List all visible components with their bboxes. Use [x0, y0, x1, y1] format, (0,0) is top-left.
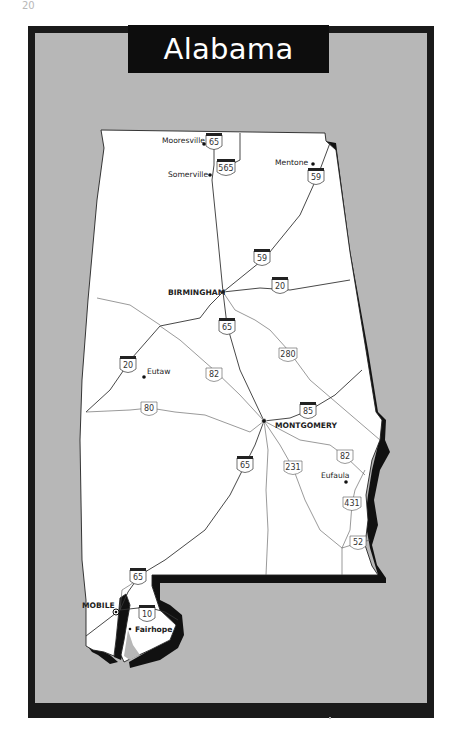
svg-text:82: 82: [209, 370, 219, 379]
svg-text:85: 85: [303, 407, 313, 416]
alabama-map: 65 565 59 59 20 65 2: [0, 0, 456, 739]
interstate-shield-59: 59: [254, 249, 270, 266]
svg-text:280: 280: [280, 350, 295, 359]
city-dot-montgomery: [262, 419, 267, 424]
scan-speck: [329, 717, 331, 719]
interstate-shield-10: 10: [139, 605, 155, 622]
svg-text:80: 80: [144, 404, 154, 413]
svg-text:10: 10: [142, 610, 152, 619]
city-label-mentone: Mentone: [275, 158, 308, 167]
us-shield-52: 52: [350, 536, 366, 550]
interstate-shield-59-north: 59: [308, 168, 324, 185]
svg-text:431: 431: [344, 499, 359, 508]
svg-text:82: 82: [340, 452, 350, 461]
interstate-shield-20-east: 20: [272, 277, 288, 294]
city-dot-eufaula: [344, 480, 348, 484]
svg-text:565: 565: [218, 164, 233, 173]
city-dot-eutaw: [142, 375, 146, 379]
interstate-shield-85: 85: [300, 402, 316, 419]
svg-text:20: 20: [275, 282, 285, 291]
interstate-shield-65-north: 65: [206, 133, 222, 150]
us-shield-231: 231: [284, 461, 302, 475]
us-shield-82-west: 82: [206, 368, 222, 382]
interstate-shield-565: 565: [217, 159, 235, 176]
svg-text:52: 52: [353, 538, 363, 547]
city-label-montgomery: MONTGOMERY: [275, 421, 337, 430]
interstate-shield-65-central: 65: [219, 318, 235, 335]
svg-text:65: 65: [209, 138, 219, 147]
svg-text:65: 65: [240, 461, 250, 470]
us-shield-80: 80: [141, 402, 157, 416]
city-dot-mentone: [311, 162, 315, 166]
interstate-shield-65-south: 65: [237, 456, 253, 473]
city-label-birmingham: BIRMINGHAM: [168, 288, 225, 297]
svg-text:59: 59: [311, 173, 321, 182]
city-label-somerville: Somerville: [168, 170, 208, 179]
city-label-mobile: MOBILE: [82, 601, 115, 610]
us-shield-82-east: 82: [337, 450, 353, 464]
title-banner: Alabama: [128, 25, 329, 73]
city-label-eufaula: Eufaula: [321, 471, 350, 480]
city-dot-somerville: [208, 173, 212, 177]
svg-text:20: 20: [123, 361, 133, 370]
map-title: Alabama: [164, 32, 294, 66]
city-label-mooresville: Mooresville: [162, 136, 205, 145]
interstate-shield-20-west: 20: [120, 356, 136, 373]
interstate-shield-65-mobile: 65: [130, 568, 146, 585]
city-dot-fairhope: [129, 628, 132, 631]
city-label-eutaw: Eutaw: [147, 367, 170, 376]
us-shield-431: 431: [343, 497, 361, 511]
svg-text:59: 59: [257, 254, 267, 263]
svg-text:65: 65: [133, 573, 143, 582]
svg-text:231: 231: [285, 463, 300, 472]
us-shield-280: 280: [279, 348, 297, 362]
svg-text:65: 65: [222, 323, 232, 332]
city-label-fairhope: Fairhope: [135, 625, 172, 634]
